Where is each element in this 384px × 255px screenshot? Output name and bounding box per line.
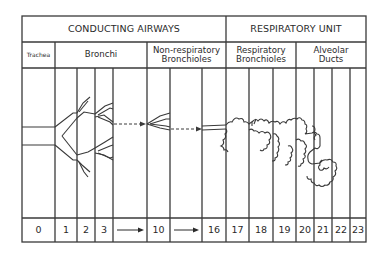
- generation-16: 16: [202, 218, 226, 242]
- generation-18: 18: [249, 218, 273, 242]
- alveolar-ducts-label: Alveolar Ducts: [296, 42, 366, 68]
- generation-3: 3: [95, 218, 113, 242]
- respiratory-unit-header: RESPIRATORY UNIT: [226, 16, 366, 42]
- generation-22: 22: [332, 218, 350, 242]
- generation-23: 23: [350, 218, 366, 242]
- nonrespiratory-bronchioles-label: Non-respiratory Bronchioles: [147, 42, 226, 68]
- generation-19: 19: [273, 218, 296, 242]
- airway-generations-diagram: CONDUCTING AIRWAYS RESPIRATORY UNIT Trac…: [0, 0, 384, 255]
- respiratory-bronchioles-label: Respiratory Bronchioles: [226, 42, 296, 68]
- nonrespiratory-line2: Bronchioles: [162, 55, 212, 64]
- alveolar-line2: Ducts: [319, 55, 344, 64]
- respiratory-line2: Bronchioles: [236, 55, 286, 64]
- trachea-label: Trachea: [22, 42, 55, 68]
- bronchi-label: Bronchi: [55, 42, 147, 68]
- generation-17: 17: [226, 218, 249, 242]
- airway-tree-illustration: [22, 97, 337, 187]
- conducting-airways-header: CONDUCTING AIRWAYS: [22, 16, 226, 42]
- generation-21: 21: [314, 218, 332, 242]
- generation-10: 10: [147, 218, 170, 242]
- generation-1: 1: [55, 218, 77, 242]
- generation-20: 20: [296, 218, 314, 242]
- generation-2: 2: [77, 218, 95, 242]
- generation-0: 0: [22, 218, 55, 242]
